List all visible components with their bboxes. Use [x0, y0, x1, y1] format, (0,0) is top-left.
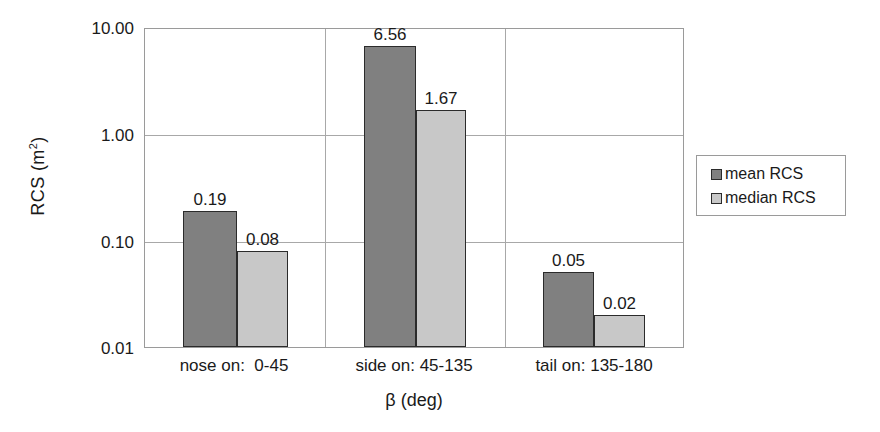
rcs-bar-chart-figure: RCS (m2) 10.00 1.00 0.10 0.01 0.19 0.08 … — [0, 0, 880, 432]
x-tick-label-nose-on: nose on: 0-45 — [144, 356, 324, 376]
legend-swatch-icon-median — [711, 193, 722, 204]
bar-label-mean-tail-on: 0.05 — [533, 252, 604, 269]
bar-label-mean-side-on: 6.56 — [354, 26, 426, 43]
category-separator-1 — [325, 29, 326, 347]
plot-area: 0.19 0.08 6.56 1.67 0.05 0.02 — [144, 28, 684, 348]
legend-item-mean-rcs[interactable]: mean RCS — [711, 162, 845, 186]
y-axis-title-exponent: 2 — [27, 143, 39, 150]
legend: mean RCS median RCS — [696, 155, 846, 216]
y-axis-tick-labels: 10.00 1.00 0.10 0.01 — [72, 0, 134, 432]
y-axis-title: RCS (m2) — [27, 96, 49, 256]
legend-label-median-rcs: median RCS — [725, 190, 816, 206]
y-tick-label-10: 10.00 — [72, 20, 134, 37]
bar-median-side-on[interactable] — [416, 110, 466, 347]
bar-label-median-side-on: 1.67 — [406, 90, 476, 107]
bar-label-mean-nose-on: 0.19 — [173, 191, 247, 208]
y-tick-label-0-01: 0.01 — [72, 340, 134, 357]
legend-item-median-rcs[interactable]: median RCS — [711, 186, 845, 210]
x-axis-tick-labels: nose on: 0-45 side on: 45-135 tail on: 1… — [144, 356, 684, 380]
x-tick-label-tail-on: tail on: 135-180 — [504, 356, 684, 376]
bar-median-tail-on[interactable] — [594, 315, 645, 347]
bar-median-nose-on[interactable] — [237, 251, 288, 347]
x-tick-label-side-on: side on: 45-135 — [324, 356, 504, 376]
x-axis-title: β (deg) — [144, 390, 684, 411]
y-axis-title-close: ) — [28, 136, 48, 142]
category-separator-2 — [505, 29, 506, 347]
legend-label-mean-rcs: mean RCS — [725, 166, 803, 182]
y-tick-label-1: 1.00 — [72, 127, 134, 144]
bar-label-median-tail-on: 0.02 — [584, 295, 655, 312]
legend-swatch-icon-mean — [711, 169, 722, 180]
y-axis-title-base: RCS (m — [28, 149, 48, 215]
bar-label-median-nose-on: 0.08 — [227, 231, 298, 248]
y-tick-label-0-10: 0.10 — [72, 234, 134, 251]
